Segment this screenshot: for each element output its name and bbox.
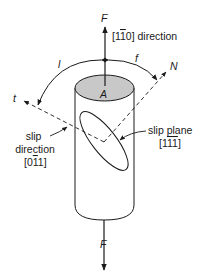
normal-label: N bbox=[170, 60, 178, 72]
angle-phi-label: f bbox=[135, 52, 139, 64]
force-bottom-label: F bbox=[100, 238, 107, 250]
slip-plane-ellipse bbox=[72, 105, 135, 177]
slip-plane-index: [111] bbox=[159, 137, 181, 149]
slip-direction-index: [011] bbox=[24, 156, 47, 168]
slip-plane-leader bbox=[120, 131, 146, 140]
area-label: A bbox=[99, 88, 107, 100]
direction-label: [110] direction bbox=[112, 30, 177, 42]
slip-direction-leader bbox=[50, 127, 67, 136]
slip-direction-label: slip direction bbox=[15, 130, 55, 155]
slip-system-diagram: F F [110] direction A l f N t slip direc… bbox=[0, 0, 203, 280]
force-top-label: F bbox=[101, 12, 108, 24]
slip-direction-axis-label: t bbox=[13, 92, 17, 104]
slip-plane-label: slip plane bbox=[148, 124, 193, 136]
angle-lambda-label: l bbox=[58, 58, 61, 70]
